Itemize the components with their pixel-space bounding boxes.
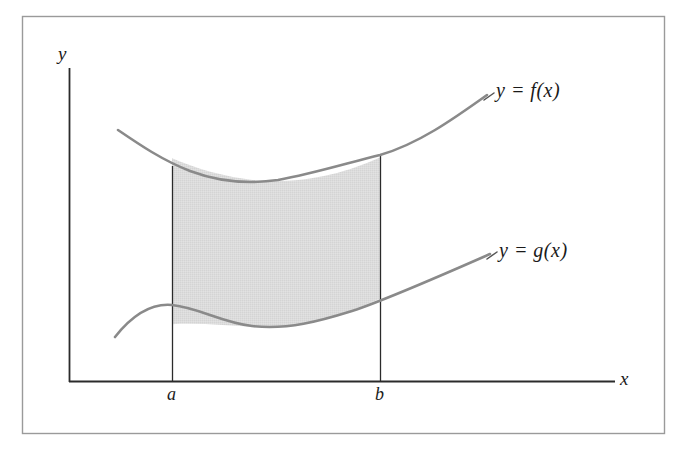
figure-container: y x y = f(x) y = g(x) a b xyxy=(0,0,682,455)
y-axis-label: y xyxy=(58,44,66,63)
curve-label-g: y = g(x) xyxy=(499,240,568,260)
figure-canvas xyxy=(0,0,682,455)
bound-label-b: b xyxy=(375,385,384,403)
curve-label-f: y = f(x) xyxy=(496,80,560,100)
bound-label-a: a xyxy=(167,385,176,403)
x-axis-label: x xyxy=(620,369,628,388)
